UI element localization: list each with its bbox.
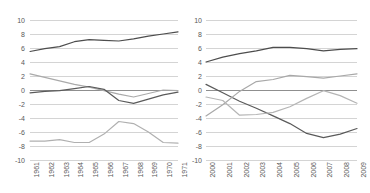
series-layer-left (30, 20, 178, 160)
y-axis-tick-label: 0 (198, 87, 202, 94)
y-axis-tick-label: 10 (17, 17, 25, 24)
y-axis-tick-label: -4 (19, 115, 25, 122)
x-axis-tick-label: 2007 (326, 162, 333, 178)
y-axis-tick-label: -2 (19, 101, 25, 108)
x-axis-tick-label: 2008 (343, 162, 350, 178)
plot-area-left: 1086420-2-4-6-8-10 (30, 20, 178, 160)
y-axis-tick-label: -4 (196, 115, 202, 122)
x-axis-tick-label: 2006 (310, 162, 317, 178)
y-axis-tick-label: 0 (21, 87, 25, 94)
y-axis-tick-label: -8 (196, 143, 202, 150)
x-axis-tick-label: 1964 (77, 162, 84, 178)
x-axis-tick-label: 1962 (48, 162, 55, 178)
y-axis-tick-label: 8 (21, 31, 25, 38)
y-axis-tick-label: 8 (198, 31, 202, 38)
x-axis-tick-label: 2004 (276, 162, 283, 178)
y-axis-tick-label: -6 (19, 129, 25, 136)
series-line-series-1-dark-upper (206, 47, 357, 62)
series-line-series-2-dark-descending (206, 84, 357, 137)
series-line-series-4-light-bottom (30, 122, 178, 144)
x-axis-tick-label: 1969 (151, 162, 158, 178)
x-axis-labels-right: 2000200120022003200420052006200720082009 (206, 162, 357, 193)
x-axis-tick-label: 1968 (137, 162, 144, 178)
x-axis-tick-label: 1967 (122, 162, 129, 178)
series-layer-right (206, 20, 357, 160)
series-line-series-1-dark-upper (30, 32, 178, 52)
x-axis-tick-label: 1970 (166, 162, 173, 178)
y-axis-tick-label: 4 (21, 59, 25, 66)
x-axis-tick-label: 1965 (92, 162, 99, 178)
plot-area-right: 1086420-2-4-6-8-10 (206, 20, 357, 160)
y-axis-tick-label: -10 (15, 157, 25, 164)
x-axis-tick-label: 2005 (293, 162, 300, 178)
y-axis-tick-label: -2 (196, 101, 202, 108)
x-axis-tick-label: 2003 (259, 162, 266, 178)
series-line-series-2-light-descending (30, 74, 178, 97)
y-axis-tick-label: -6 (196, 129, 202, 136)
y-axis-tick-label: 2 (198, 73, 202, 80)
x-axis-tick-label: 1966 (107, 162, 114, 178)
y-axis-tick-label: 4 (198, 59, 202, 66)
x-axis-labels-left: 1961196219631964196519661967196819691970… (30, 162, 178, 193)
y-axis-tick-label: 6 (21, 45, 25, 52)
series-line-series-3-dark-lower (30, 87, 178, 104)
x-axis-tick-label: 2000 (209, 162, 216, 178)
x-axis-tick-label: 1961 (33, 162, 40, 178)
x-axis-tick-label: 1963 (63, 162, 70, 178)
dual-line-chart-figure: 1086420-2-4-6-8-10 196119621963196419651… (0, 0, 370, 193)
y-axis-tick-label: 2 (21, 73, 25, 80)
y-axis-tick-label: 6 (198, 45, 202, 52)
x-axis-tick-label: 2002 (243, 162, 250, 178)
chart-panel-right: 1086420-2-4-6-8-10 200020012002200320042… (185, 0, 370, 193)
y-axis-tick-label: -8 (19, 143, 25, 150)
series-line-series-4-light-dipping (206, 91, 357, 116)
y-axis-tick-label: -10 (192, 157, 202, 164)
chart-panel-left: 1086420-2-4-6-8-10 196119621963196419651… (0, 0, 185, 193)
x-axis-tick-label: 2009 (360, 162, 367, 178)
y-axis-tick-label: 10 (194, 17, 202, 24)
x-axis-tick-label: 2001 (226, 162, 233, 178)
